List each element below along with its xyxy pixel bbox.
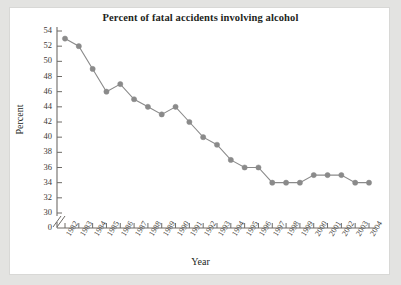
data-point [104,89,109,94]
data-point [131,97,136,102]
x-tick-marks [65,223,369,228]
data-point [187,119,192,124]
plot-area [10,8,391,276]
data-point [173,104,178,109]
data-point [283,180,288,185]
data-point [325,172,330,177]
data-point [76,44,81,49]
data-point [311,172,316,177]
data-point [242,165,247,170]
data-point [90,66,95,71]
data-point [62,36,67,41]
data-point [353,180,358,185]
series-line [65,39,369,183]
line-chart: Percent of fatal accidents involving alc… [10,8,391,276]
data-point [118,81,123,86]
data-point [159,112,164,117]
y-tick-marks [57,31,62,213]
axis-lines [57,27,375,228]
data-point [270,180,275,185]
data-point [339,172,344,177]
data-point [201,135,206,140]
data-point [145,104,150,109]
data-point [214,142,219,147]
figure-panel: Percent of fatal accidents involving alc… [9,7,390,275]
data-point [256,165,261,170]
series-markers [62,36,371,185]
data-point [228,157,233,162]
data-point [366,180,371,185]
y-axis-break-icon [53,216,65,227]
data-point [297,180,302,185]
